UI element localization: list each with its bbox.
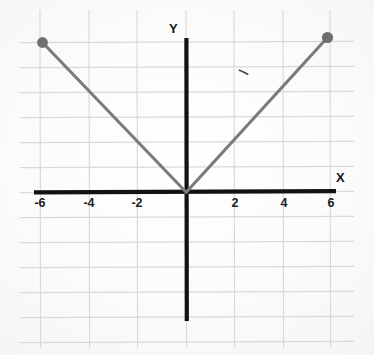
- grid-line-vertical: [137, 10, 138, 348]
- y-axis-label: Y: [169, 22, 178, 35]
- stray-pencil-mark-icon: [240, 70, 248, 74]
- x-tick-label-6: 6: [318, 197, 344, 210]
- x-axis-label: X: [336, 171, 345, 184]
- grid-line-vertical: [40, 10, 41, 348]
- endpoint-dot-right: [322, 32, 333, 43]
- x-tick-label-minus-2: -2: [124, 197, 150, 210]
- x-tick-label-minus-4: -4: [76, 197, 102, 210]
- grid-line-horizontal: [20, 341, 354, 342]
- graph-screenshot: Y X -6 -4 -2 2 4 6: [0, 0, 374, 355]
- grid-line-vertical: [330, 10, 331, 348]
- grid-line-vertical: [283, 10, 284, 348]
- x-tick-label-2: 2: [222, 197, 248, 210]
- coordinate-plane: [0, 0, 374, 355]
- grid-line-vertical: [89, 10, 90, 348]
- grid-line-vertical: [234, 10, 235, 348]
- endpoint-dot-left: [37, 37, 48, 48]
- curve-right-branch: [186, 38, 327, 193]
- x-tick-label-4: 4: [271, 197, 297, 210]
- x-tick-label-minus-6: -6: [27, 197, 53, 210]
